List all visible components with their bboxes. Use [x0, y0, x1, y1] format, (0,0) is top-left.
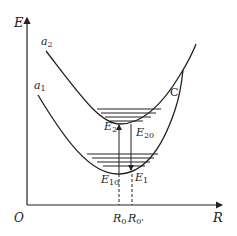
e1-label: E1	[134, 171, 148, 185]
energy-diagram: E R O a2 a1 C E2 E20 E10 E1 R0 R0'	[0, 0, 237, 236]
x-axis-label: R	[212, 210, 223, 225]
r0-label: R0	[112, 212, 126, 226]
curve-a2-label: a2	[41, 35, 53, 49]
curve-a2	[46, 44, 196, 124]
origin-label: O	[14, 211, 24, 225]
e20-label: E20	[135, 126, 154, 140]
y-axis-label: E	[13, 15, 24, 30]
r0prime-label: R0'	[127, 212, 144, 226]
e2-label: E2	[103, 120, 117, 134]
curve-a1-label: a1	[34, 79, 46, 93]
crossing-label: C	[170, 86, 178, 99]
e10-label: E10	[100, 173, 119, 187]
